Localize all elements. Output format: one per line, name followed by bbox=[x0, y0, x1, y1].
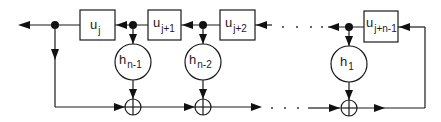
adder-3 bbox=[341, 100, 357, 116]
adder-1 bbox=[125, 99, 141, 115]
arrow-down-icon bbox=[345, 90, 353, 100]
arrow-down-icon bbox=[129, 34, 137, 44]
arrow-into-u_j+1-icon bbox=[182, 21, 193, 29]
arrow-into-sum-1-icon bbox=[114, 103, 125, 111]
arrow-down-icon bbox=[345, 36, 353, 46]
output-arrow-icon bbox=[18, 21, 30, 29]
ellipsis-dot-top bbox=[296, 26, 298, 28]
arrow-into-u_j-icon bbox=[116, 21, 127, 29]
ellipsis-dot-top bbox=[321, 26, 323, 28]
arrow-down-left-icon bbox=[51, 49, 59, 60]
arrow-into-u_j+n-1-icon bbox=[399, 23, 410, 31]
ellipsis-dot-bottom bbox=[297, 107, 299, 109]
arrow-into-u_j+2-icon bbox=[256, 21, 267, 29]
adder-2 bbox=[195, 99, 211, 115]
arrow-out-left-icon bbox=[328, 23, 339, 31]
arrow-down-icon bbox=[199, 89, 207, 99]
shift-register-feedback-diagram: uj uj+1 uj+2 uj+n-1 hn-1 bbox=[0, 0, 441, 122]
ellipsis-dot-top bbox=[282, 26, 284, 28]
arrow-right-icon bbox=[251, 103, 262, 111]
arrow-into-sum-2-icon bbox=[184, 103, 195, 111]
ellipsis-dot-bottom bbox=[284, 107, 286, 109]
ellipsis-dot-bottom bbox=[271, 107, 273, 109]
arrow-into-sum-3-icon bbox=[329, 104, 340, 112]
ellipsis-dot-top bbox=[310, 26, 312, 28]
arrow-down-icon bbox=[129, 89, 137, 99]
arrow-down-icon bbox=[199, 34, 207, 44]
arrow-right-icon bbox=[374, 104, 385, 112]
